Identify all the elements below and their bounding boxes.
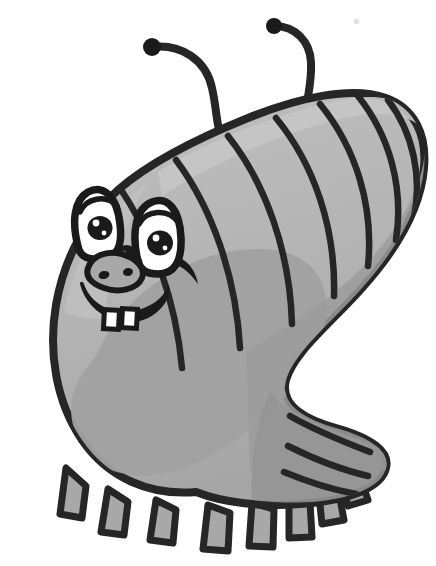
leg-3 — [150, 500, 176, 543]
leg-4 — [203, 505, 230, 551]
left-eye — [75, 190, 121, 260]
illustration-canvas: Cartoon caterpillar grub — [0, 0, 436, 566]
caterpillar-illustration — [0, 0, 436, 566]
left-antenna-tip-icon — [143, 38, 161, 56]
left-antenna — [152, 47, 222, 141]
leg-2 — [101, 489, 128, 535]
right-pupil-highlight-b — [163, 246, 168, 251]
left-pupil-highlight-a — [93, 220, 100, 227]
tooth-left — [103, 310, 119, 330]
right-pupil-highlight-a — [153, 235, 160, 242]
leg-5 — [249, 503, 274, 547]
stray-speck — [354, 19, 359, 24]
left-pupil — [88, 216, 113, 240]
leg-1 — [60, 468, 86, 518]
nose-shape — [87, 253, 143, 291]
left-pupil-highlight-b — [102, 231, 107, 236]
tooth-right — [121, 309, 137, 329]
right-pupil — [147, 231, 173, 256]
right-antenna-tip-icon — [266, 18, 282, 34]
